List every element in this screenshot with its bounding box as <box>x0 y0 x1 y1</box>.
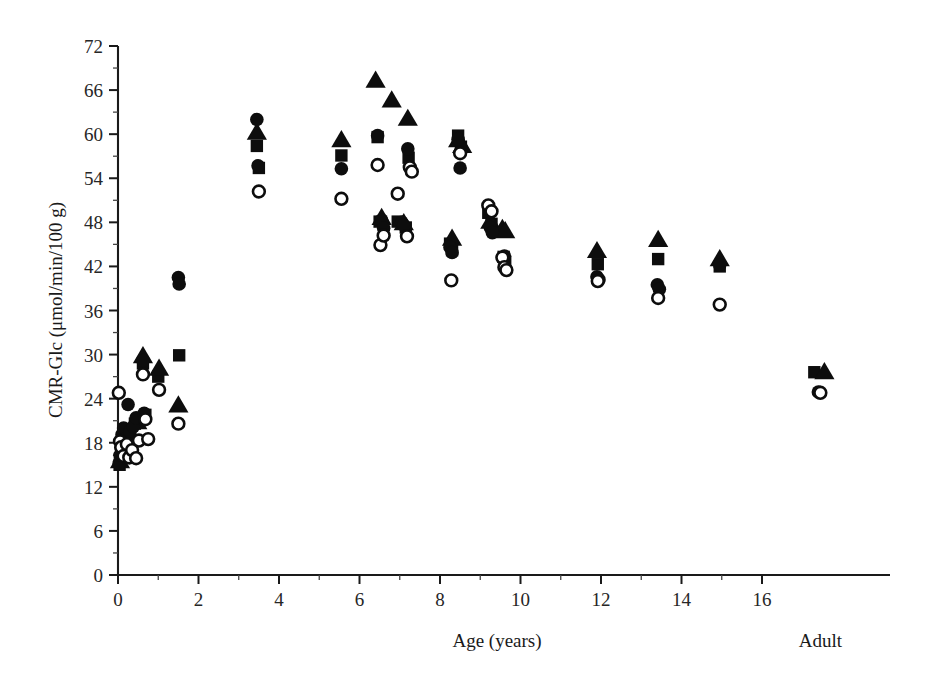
x-axis-title: Age (years) <box>452 630 541 652</box>
data-point-open-circle <box>153 384 165 396</box>
y-tick-label: 48 <box>84 212 103 233</box>
data-point-filled-circle <box>445 246 459 260</box>
scatter-plot-svg: 0612182430364248546066720246810121416Age… <box>0 0 925 685</box>
data-point-filled-triangle <box>382 90 402 107</box>
chart-figure: 0612182430364248546066720246810121416Age… <box>0 0 925 685</box>
data-point-filled-triangle <box>648 230 668 247</box>
series-filled-circle <box>112 113 825 470</box>
y-tick-label: 36 <box>84 301 103 322</box>
series-open-circle <box>113 147 826 464</box>
data-point-open-circle <box>714 299 726 311</box>
data-point-filled-square <box>251 140 263 152</box>
data-point-open-circle <box>335 193 347 205</box>
data-point-filled-circle <box>401 142 415 156</box>
data-point-open-circle <box>445 274 457 286</box>
data-point-filled-square <box>335 149 347 161</box>
data-point-open-circle <box>137 369 149 381</box>
data-point-open-circle <box>406 166 418 178</box>
data-point-filled-circle <box>451 133 465 147</box>
data-point-open-circle <box>501 264 513 276</box>
x-tick-label: 10 <box>511 589 530 610</box>
data-point-open-circle <box>652 292 664 304</box>
y-tick-label: 18 <box>84 433 103 454</box>
data-point-filled-triangle <box>168 395 188 412</box>
data-point-open-circle <box>142 433 154 445</box>
data-point-filled-triangle <box>366 70 386 87</box>
y-tick-label: 12 <box>84 477 103 498</box>
data-point-filled-triangle <box>149 358 169 375</box>
y-tick-label: 24 <box>84 389 104 410</box>
x-tick-label: 6 <box>355 589 365 610</box>
data-point-filled-circle <box>453 161 467 175</box>
data-point-open-circle <box>172 418 184 430</box>
data-point-open-circle <box>372 159 384 171</box>
y-tick-label: 72 <box>84 36 103 57</box>
data-point-open-circle <box>401 230 413 242</box>
y-tick-label: 54 <box>84 168 104 189</box>
y-tick-label: 0 <box>94 565 104 586</box>
data-point-open-circle <box>139 413 151 425</box>
data-point-open-circle <box>113 387 125 399</box>
adult-category-label: Adult <box>799 630 843 651</box>
data-point-filled-circle <box>172 277 186 291</box>
data-points-layer <box>110 70 835 471</box>
data-point-filled-circle <box>121 398 135 412</box>
data-point-filled-circle <box>251 159 265 173</box>
y-axis-title: CMR-Glc (μmol/min/100 g) <box>45 202 67 418</box>
data-point-open-circle <box>814 387 826 399</box>
data-point-open-circle <box>592 275 604 287</box>
data-point-filled-triangle <box>587 241 607 258</box>
x-tick-label: 8 <box>435 589 445 610</box>
data-point-filled-square <box>173 349 185 361</box>
data-point-open-circle <box>486 205 498 217</box>
x-tick-label: 0 <box>113 589 123 610</box>
data-point-filled-triangle <box>398 109 418 126</box>
data-point-open-circle <box>130 452 142 464</box>
data-point-open-circle <box>454 147 466 159</box>
y-tick-label: 30 <box>84 345 103 366</box>
x-tick-label: 16 <box>753 589 772 610</box>
data-point-filled-circle <box>335 162 349 176</box>
data-point-open-circle <box>253 186 265 198</box>
x-tick-label: 2 <box>194 589 204 610</box>
y-tick-label: 6 <box>94 521 104 542</box>
x-tick-label: 14 <box>672 589 692 610</box>
data-point-filled-circle <box>713 258 727 272</box>
axes-layer <box>109 46 890 584</box>
x-tick-label: 4 <box>274 589 284 610</box>
data-point-filled-circle <box>136 354 150 368</box>
y-tick-label: 42 <box>84 256 103 277</box>
y-tick-label: 66 <box>84 80 103 101</box>
x-tick-label: 12 <box>592 589 611 610</box>
axis-labels-layer: 0612182430364248546066720246810121416Age… <box>45 36 843 652</box>
data-point-filled-circle <box>250 113 264 127</box>
data-point-filled-square <box>592 258 604 270</box>
data-point-open-circle <box>378 230 390 242</box>
data-point-filled-triangle <box>331 130 351 147</box>
data-point-filled-circle <box>486 226 500 240</box>
data-point-filled-circle <box>371 129 385 143</box>
data-point-filled-square <box>652 253 664 265</box>
y-tick-label: 60 <box>84 124 103 145</box>
data-point-open-circle <box>392 188 404 200</box>
